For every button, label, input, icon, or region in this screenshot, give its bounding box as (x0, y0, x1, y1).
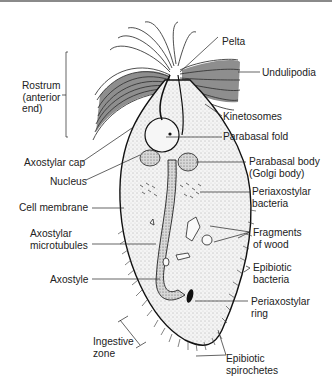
label-axostyle: Axostyle (50, 274, 89, 286)
label-line: microtubules (30, 240, 88, 252)
label-line: Cell membrane (19, 202, 88, 214)
label-nucleus: Nucleus (50, 176, 87, 188)
parabasal-body-shape (178, 153, 198, 171)
label-line: of wood (253, 239, 302, 251)
label-line: Axostylar cap (24, 157, 85, 169)
label-line: (Golgi body) (249, 168, 320, 180)
label-line: Fragments (253, 227, 302, 239)
label-line: bacteria (253, 274, 292, 286)
label-line: Axostylar (30, 228, 88, 240)
label-parabasal-fold: Parabasal fold (223, 131, 288, 143)
label-rostrum: Rostrum (anterior end) (22, 80, 61, 115)
label-kinetosomes: Kinetosomes (223, 111, 282, 123)
label-pelta: Pelta (222, 36, 245, 48)
label-line: Ingestive (93, 336, 134, 348)
label-line: (anterior (22, 92, 61, 104)
label-line: Epibiotic (253, 262, 292, 274)
label-line: Nucleus (50, 176, 87, 188)
label-line: Pelta (222, 36, 245, 48)
label-line: end) (22, 103, 61, 115)
nucleus-shape (145, 118, 179, 152)
label-cell-membrane: Cell membrane (19, 202, 88, 214)
label-line: zone (93, 348, 134, 360)
label-line: Undulipodia (262, 67, 316, 79)
label-undulipodia: Undulipodia (262, 67, 316, 79)
label-line: Kinetosomes (223, 111, 282, 123)
label-line: Periaxostylar (251, 296, 310, 308)
label-line: Periaxostylar (252, 186, 311, 198)
label-axostylar-microtubules: Axostylar microtubules (30, 228, 88, 251)
label-line: ring (251, 308, 310, 320)
label-line: Parabasal fold (223, 131, 288, 143)
label-parabasal-body: Parabasal body (Golgi body) (249, 156, 320, 179)
diagram-figure: Rostrum (anterior end) Axostylar cap Nuc… (0, 0, 332, 386)
label-epibiotic-spirochetes: Epibiotic spirochetes (226, 353, 278, 376)
label-fragments-of-wood: Fragments of wood (253, 227, 302, 250)
label-periaxostylar-ring: Periaxostylar ring (251, 296, 310, 319)
label-ingestive-zone: Ingestive zone (93, 336, 134, 359)
label-line: Axostyle (50, 274, 89, 286)
label-line: bacteria (252, 198, 311, 210)
label-line: spirochetes (226, 365, 278, 377)
label-line: Epibiotic (226, 353, 278, 365)
label-epibiotic-bacteria: Epibiotic bacteria (253, 262, 292, 285)
label-line: Parabasal body (249, 156, 320, 168)
label-periaxostylar-bacteria: Periaxostylar bacteria (252, 186, 311, 209)
label-line: Rostrum (22, 80, 61, 92)
label-axostylar-cap: Axostylar cap (24, 157, 85, 169)
